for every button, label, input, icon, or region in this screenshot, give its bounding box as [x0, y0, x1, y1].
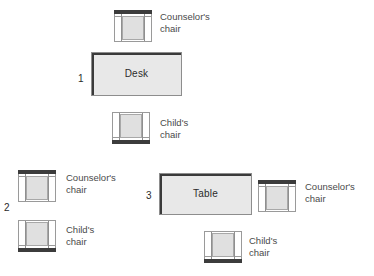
callout-counselor-group3: Counselor's chair	[305, 181, 355, 205]
callout-counselor-group1: Counselor's chair	[160, 11, 210, 35]
chair-seat	[26, 222, 48, 246]
chair-arm-left	[121, 14, 122, 41]
chair-backrest	[18, 170, 56, 174]
chair-backrest	[258, 180, 296, 184]
chair-child-group3	[204, 231, 242, 263]
chair-arm-left	[211, 232, 212, 259]
chair-arm-right	[144, 14, 145, 41]
chair-seat	[26, 176, 48, 200]
chair-counselor-group1	[114, 10, 152, 42]
chair-arm-right	[288, 184, 289, 211]
chair-arm-right	[48, 174, 49, 201]
chair-counselor-group3	[258, 180, 296, 212]
chair-arm-right	[234, 232, 235, 259]
chair-arm-right	[48, 221, 49, 248]
group-number-2: 2	[4, 203, 10, 213]
callout-child-group2: Child's chair	[66, 224, 94, 248]
group-number-1: 1	[78, 74, 84, 84]
callout-child-group1: Child's chair	[160, 117, 188, 141]
callout-counselor-group2: Counselor's chair	[66, 172, 116, 196]
chair-backrest	[114, 10, 152, 14]
furniture-table: Table	[159, 173, 252, 215]
chair-child-group2	[18, 220, 56, 252]
diagram-canvas: Counselor's chair 1 Desk Child's chair 2…	[0, 0, 374, 276]
chair-arm-left	[25, 174, 26, 201]
chair-backrest	[112, 140, 150, 144]
furniture-table-label: Table	[193, 189, 218, 199]
chair-arm-right	[142, 113, 143, 140]
chair-backrest	[18, 248, 56, 252]
chair-seat	[212, 233, 234, 257]
chair-backrest	[204, 259, 242, 263]
furniture-desk: Desk	[91, 52, 182, 96]
chair-arm-left	[265, 184, 266, 211]
chair-child-group1	[112, 112, 150, 144]
furniture-desk-label: Desk	[125, 69, 149, 79]
chair-arm-left	[25, 221, 26, 248]
callout-child-group3: Child's chair	[249, 235, 277, 259]
chair-seat	[266, 186, 288, 210]
chair-seat	[120, 114, 142, 138]
chair-arm-left	[119, 113, 120, 140]
group-number-3: 3	[146, 191, 152, 201]
chair-seat	[122, 16, 144, 40]
chair-counselor-group2	[18, 170, 56, 202]
